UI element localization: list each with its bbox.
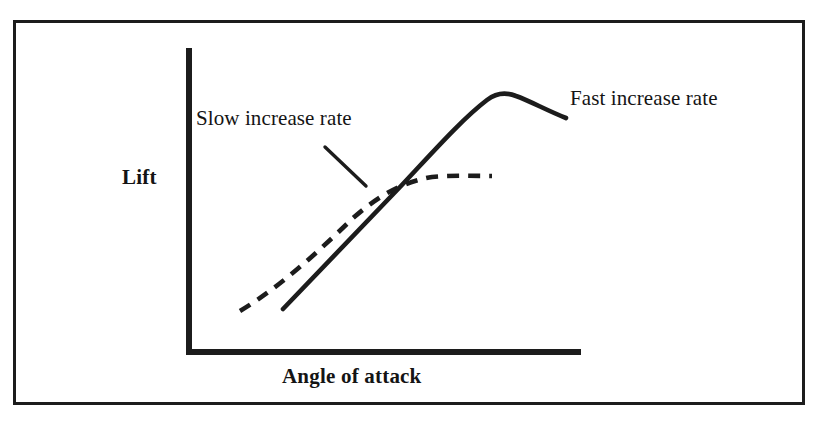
annotation-slow-increase-rate: Slow increase rate <box>196 108 352 129</box>
annotation-fast-increase-rate: Fast increase rate <box>570 88 718 109</box>
figure-container: Lift Angle of attack Slow increase rate … <box>0 0 818 421</box>
plot-canvas <box>0 0 818 421</box>
slow-label-leader-line <box>325 147 366 186</box>
x-axis-label: Angle of attack <box>282 366 421 387</box>
series-slow-increase-rate <box>240 176 492 311</box>
y-axis-label: Lift <box>122 167 157 188</box>
